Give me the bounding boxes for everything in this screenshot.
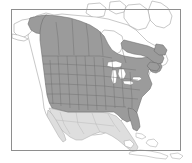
arctic-island-small bbox=[109, 1, 126, 14]
cuba-outline bbox=[129, 150, 168, 159]
hispaniola-outline bbox=[170, 153, 183, 159]
map-figure bbox=[0, 0, 192, 163]
arctic-island-victoria bbox=[86, 3, 106, 18]
bahamas-outline bbox=[146, 139, 158, 147]
north-america-range-map bbox=[0, 0, 192, 163]
florida-keys-outline bbox=[136, 133, 146, 139]
greenland-outline bbox=[148, 1, 172, 28]
